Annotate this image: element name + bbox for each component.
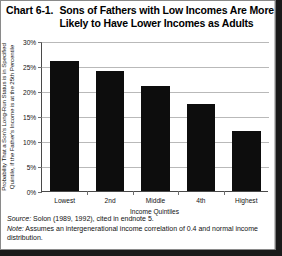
x-tick-label: Middle xyxy=(146,197,165,204)
page-title: Sons of Fathers with Low Incomes Are Mor… xyxy=(59,4,274,30)
y-axis-title-line-2: Quintile, if the Father's Income is at t… xyxy=(8,42,16,192)
assumption-note: Note: Assumes an intergenerational incom… xyxy=(7,224,265,243)
y-tick-label: 20% xyxy=(23,89,36,96)
chart-area: Probability That a Son's Long-Run Status… xyxy=(0,32,276,210)
bar-highest xyxy=(232,131,261,191)
y-tick-mark xyxy=(38,42,42,43)
y-tick-label: 0% xyxy=(27,189,36,196)
x-tick-label: Lowest xyxy=(54,197,75,204)
chart-figure: Chart 6-1. Sons of Fathers with Low Inco… xyxy=(0,0,282,256)
x-tick-mark xyxy=(224,191,225,195)
note-text: Assumes an intergenerational income corr… xyxy=(7,225,258,242)
y-tick-mark xyxy=(38,117,42,118)
x-tick-mark xyxy=(87,191,88,195)
source-text: Solon (1989, 1992), cited in endnote 5. xyxy=(31,215,154,222)
x-tick-label: Highest xyxy=(235,197,257,204)
source-label: Source: xyxy=(7,215,31,222)
bar-lowest xyxy=(50,61,79,191)
y-gridline xyxy=(42,42,269,43)
source-note: Source: Solon (1989, 1992), cited in end… xyxy=(7,214,265,224)
chart-number-label: Chart 6-1. xyxy=(6,4,59,17)
x-tick-mark xyxy=(133,191,134,195)
frame-shadow-bottom xyxy=(0,250,282,256)
bar-4th xyxy=(187,104,216,192)
y-tick-label: 10% xyxy=(23,139,36,146)
bar-middle xyxy=(141,86,170,191)
x-tick-mark xyxy=(178,191,179,195)
x-tick-label: 4th xyxy=(196,197,205,204)
y-axis-title: Probability That a Son's Long-Run Status… xyxy=(0,42,22,192)
x-tick-label: 2nd xyxy=(105,197,116,204)
frame-shadow-right xyxy=(276,0,282,256)
note-label: Note: xyxy=(7,225,24,232)
title-line-2: Likely to Have Lower Incomes as Adults xyxy=(59,17,274,30)
y-tick-label: 15% xyxy=(23,114,36,121)
y-tick-mark xyxy=(38,67,42,68)
y-tick-mark xyxy=(38,142,42,143)
y-tick-mark xyxy=(38,92,42,93)
y-tick-mark xyxy=(38,167,42,168)
title-block: Chart 6-1. Sons of Fathers with Low Inco… xyxy=(6,4,268,30)
title-line-1: Sons of Fathers with Low Incomes Are Mor… xyxy=(59,4,274,17)
y-tick-mark xyxy=(38,192,42,193)
plot-area: 0%5%10%15%20%25%30%Lowest2ndMiddle4thHig… xyxy=(41,42,268,192)
figure-notes: Source: Solon (1989, 1992), cited in end… xyxy=(7,214,265,243)
y-tick-label: 30% xyxy=(23,39,36,46)
y-tick-label: 25% xyxy=(23,64,36,71)
bar-2nd xyxy=(96,71,125,191)
y-axis-title-line-1: Probability That a Son's Long-Run Status… xyxy=(0,42,8,192)
y-tick-label: 5% xyxy=(27,164,36,171)
